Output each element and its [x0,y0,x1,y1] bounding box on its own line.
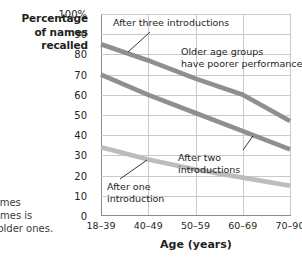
y-axis-tick-label: 60 [27,89,87,100]
chart-figure: Percentage of names recalled names e tim… [0,0,302,260]
gridline-vertical [290,14,291,216]
x-axis-title: Age (years) [101,238,291,251]
y-axis-tick-label: 100% [27,9,87,20]
annotation-older-age-groups: Older age groups have poorer performance [181,46,302,69]
annotation-after-three-introductions: After three introductions [113,17,229,29]
gridline-vertical [196,14,197,216]
y-axis-tick-label: 30 [27,150,87,161]
y-axis-tick-label: 40 [27,130,87,141]
annotation-after-one-introduction: After one introduction [107,181,164,204]
x-axis-tick-label: 70–90 [260,220,302,231]
annotation-after-two-introductions: After two introductions [178,152,240,175]
y-axis-tick-label: 80 [27,49,87,60]
y-axis-tick-label: 50 [27,110,87,121]
y-axis-tick-label: 10 [27,190,87,201]
y-axis-tick-label: 70 [27,69,87,80]
gridline-vertical [243,14,244,216]
x-axis-line [101,215,291,216]
y-axis-tick-label: 90 [27,29,87,40]
y-axis-tick-label: 20 [27,170,87,181]
